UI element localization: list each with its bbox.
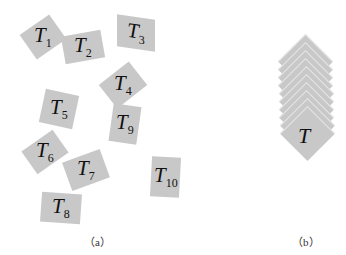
stack-label: T — [298, 123, 310, 149]
tile-t6: T6 — [21, 130, 68, 175]
tile-label: T8 — [52, 196, 70, 220]
caption-b: （b） — [292, 233, 320, 249]
tile-t10: T10 — [150, 156, 181, 197]
tile-label: T5 — [50, 97, 68, 121]
tile-label: T10 — [154, 165, 178, 189]
tile-t2: T2 — [61, 30, 105, 65]
tile-label: T3 — [127, 20, 145, 46]
tile-label: T9 — [116, 112, 134, 136]
tile-t9: T9 — [108, 103, 141, 145]
tile-t5: T5 — [39, 89, 79, 129]
tile-label: T6 — [36, 140, 54, 164]
tile-t4: T4 — [99, 61, 147, 108]
tile-t7: T7 — [62, 149, 110, 191]
caption-a: （a） — [84, 233, 111, 249]
tile-t1: T1 — [20, 14, 67, 59]
tile-t3: T3 — [117, 14, 155, 51]
tile-label: T1 — [34, 25, 52, 49]
tile-label: T2 — [74, 35, 92, 59]
tile-t8: T8 — [40, 192, 82, 225]
tile-label: T4 — [114, 73, 132, 97]
tile-label: T7 — [77, 158, 95, 182]
